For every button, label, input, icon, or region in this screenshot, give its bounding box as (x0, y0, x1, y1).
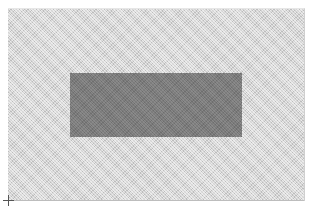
crosshair-icon (3, 195, 14, 206)
canvas-bottom-edge (8, 200, 304, 201)
selected-rectangle-shape[interactable] (70, 73, 242, 137)
drawing-canvas[interactable] (8, 8, 305, 201)
